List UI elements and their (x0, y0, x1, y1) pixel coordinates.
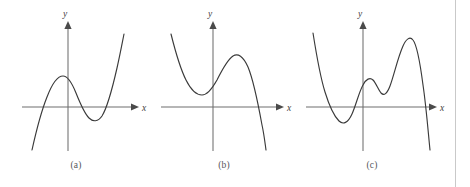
y-axis-arrowhead-c (359, 21, 366, 29)
graph-c-canvas: x y (296, 0, 466, 160)
graph-a-canvas: x y (0, 0, 152, 160)
polynomial-graphs-figure: x y (a) x y (b) x y (c (0, 0, 470, 187)
y-axis-arrowhead-b (209, 21, 216, 29)
panel-b-caption: (b) (148, 160, 300, 170)
panel-c-caption: (c) (296, 160, 448, 170)
graph-c-curve (313, 33, 430, 150)
graph-panel-b: x y (b) (148, 0, 300, 187)
x-axis-label-c: x (439, 103, 445, 113)
graph-a-curve (32, 34, 124, 150)
panel-a-caption: (a) (0, 160, 152, 170)
x-axis-arrowhead-c (429, 103, 437, 110)
y-axis-label-c: y (357, 9, 363, 19)
graph-panel-a: x y (a) (0, 0, 152, 187)
x-axis-arrowhead-a (131, 103, 139, 110)
x-axis-label-b: x (286, 103, 292, 113)
y-axis-label-a: y (62, 9, 68, 19)
graph-b-curve (171, 34, 266, 150)
y-axis-label-b: y (207, 9, 213, 19)
page-margin-rule (455, 0, 456, 187)
graph-b-canvas: x y (148, 0, 300, 160)
x-axis-arrowhead-b (276, 103, 284, 110)
y-axis-arrowhead-a (64, 21, 71, 29)
graph-panel-c: x y (c) (296, 0, 448, 187)
x-axis-label-a: x (141, 103, 147, 113)
